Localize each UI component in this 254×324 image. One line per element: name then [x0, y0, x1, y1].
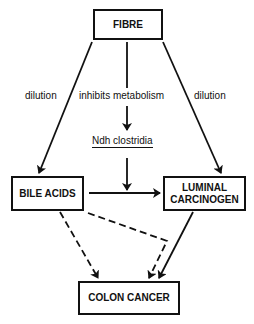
node-luminal-label-line1: LUMINAL — [182, 182, 227, 194]
edge-bile-colon-dashed — [60, 212, 98, 278]
node-colon-cancer: COLON CANCER — [78, 281, 180, 315]
node-colon-cancer-label: COLON CANCER — [88, 292, 170, 304]
node-ndh-clostridia: Ndh clostridia — [92, 135, 153, 148]
edge-label-inhibits-metabolism: inhibits metabolism — [79, 90, 164, 101]
node-luminal-carcinogen: LUMINAL CARCINOGEN — [163, 176, 246, 211]
edge-label-right-dilution: dilution — [194, 90, 226, 101]
node-luminal-label-line2: CARCINOGEN — [170, 194, 238, 206]
node-fibre-label: FIBRE — [113, 19, 143, 31]
diagram-connectors — [0, 0, 254, 324]
node-bile-acids: BILE ACIDS — [11, 176, 84, 211]
edge-label-left-dilution: dilution — [25, 90, 57, 101]
edge-bile-colon-dashed-bend — [88, 213, 167, 278]
edge-fibre-luminal — [163, 42, 221, 173]
edge-fibre-bile-acids — [39, 42, 92, 173]
node-bile-acids-label: BILE ACIDS — [19, 188, 75, 200]
node-fibre: FIBRE — [93, 9, 163, 40]
